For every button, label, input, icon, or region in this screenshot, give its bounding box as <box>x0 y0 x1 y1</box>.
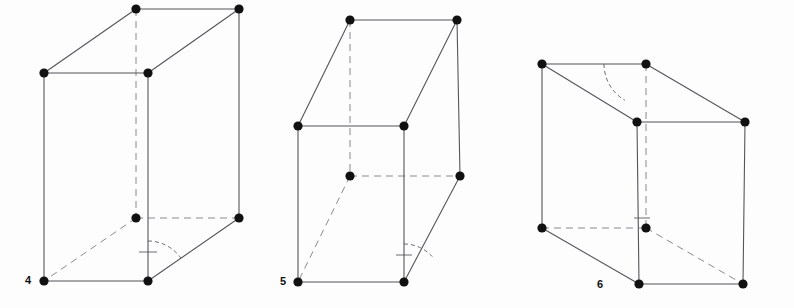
figures-canvas: 456 <box>0 0 794 308</box>
figure-label-4: 4 <box>25 274 32 286</box>
vertex-back-top-right <box>641 59 650 68</box>
vertex-back-top-right <box>234 4 243 13</box>
vertex-front-top-right <box>143 68 152 77</box>
vertex-front-top-right <box>740 117 749 126</box>
figure-label-6: 6 <box>597 278 603 290</box>
vertex-back-bottom-left <box>345 171 354 180</box>
vertex-front-bottom-right <box>738 279 747 288</box>
vertex-back-bottom-right <box>234 213 243 222</box>
vertex-back-bottom-right <box>641 223 650 232</box>
vertex-front-bottom-left <box>634 279 643 288</box>
vertex-front-bottom-right <box>399 277 408 286</box>
vertex-back-top-right <box>452 15 461 24</box>
vertex-back-bottom-right <box>455 171 464 180</box>
vertex-back-bottom-left <box>131 213 140 222</box>
vertex-back-top-left <box>537 59 546 68</box>
vertex-front-top-right <box>399 121 408 130</box>
vertex-back-top-left <box>345 15 354 24</box>
vertex-front-bottom-left <box>293 277 302 286</box>
vertex-back-top-left <box>131 4 140 13</box>
vertex-front-top-left <box>632 117 641 126</box>
vertex-front-bottom-right <box>143 276 152 285</box>
vertex-back-bottom-left <box>537 223 546 232</box>
figure-label-5: 5 <box>280 275 286 287</box>
canvas-background <box>0 0 794 308</box>
vertex-front-top-left <box>293 121 302 130</box>
vertex-front-bottom-left <box>39 276 48 285</box>
vertex-front-top-left <box>39 68 48 77</box>
